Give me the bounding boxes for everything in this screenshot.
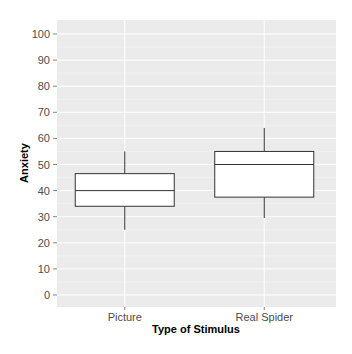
y-tick-label: 50 [38, 159, 50, 171]
x-axis-ticks: PictureReal Spider [108, 307, 294, 323]
y-tick-label: 40 [38, 185, 50, 197]
y-axis-title: Anxiety [18, 142, 30, 183]
x-axis-title: Type of Stimulus [152, 323, 240, 335]
y-tick-label: 80 [38, 80, 50, 92]
y-tick-label: 20 [38, 237, 50, 249]
y-tick-label: 10 [38, 263, 50, 275]
y-tick-label: 0 [44, 289, 50, 301]
y-tick-label: 70 [38, 106, 50, 118]
y-tick-label: 60 [38, 132, 50, 144]
x-tick-label: Real Spider [236, 311, 294, 323]
x-tick-label: Picture [108, 311, 142, 323]
y-axis-ticks: 0102030405060708090100 [32, 28, 57, 301]
y-tick-label: 30 [38, 211, 50, 223]
y-tick-label: 90 [38, 54, 50, 66]
y-tick-label: 100 [32, 28, 50, 40]
box-plot: 0102030405060708090100 PictureReal Spide… [0, 0, 352, 354]
